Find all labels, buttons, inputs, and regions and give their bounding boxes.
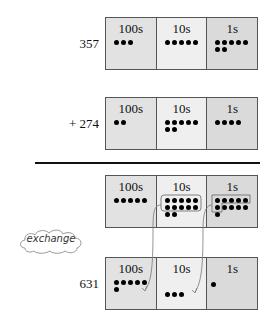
exchange-arrows [0,0,271,323]
